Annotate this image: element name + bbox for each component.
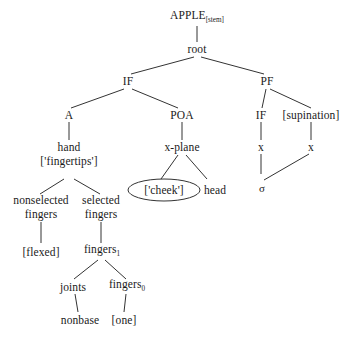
edge-if-a <box>71 89 124 108</box>
edge-pf-supination <box>270 89 311 108</box>
edge-xright-sigma <box>264 154 309 180</box>
edge-root-if <box>131 57 194 74</box>
node-if-top: IF <box>123 75 133 88</box>
node-x-left: x <box>258 141 264 154</box>
node-cheek: ['cheek'] <box>144 184 184 197</box>
node-poa: POA <box>170 109 193 122</box>
node-apple-subscript: [stem] <box>206 16 224 24</box>
node-selected-fingers-line2: fingers <box>85 208 118 222</box>
node-pf: PF <box>261 75 274 88</box>
node-fingertips: ['fingertips'] <box>40 155 97 168</box>
node-nonselected-fingers-line1: nonselected <box>13 194 68 208</box>
node-fingers0-label: fingers <box>109 278 142 290</box>
edge-xplane-head <box>186 155 207 179</box>
node-x-plane: x-plane <box>164 141 199 154</box>
node-nonbase: nonbase <box>61 314 99 327</box>
node-fingers1-subscript: 1 <box>117 250 121 258</box>
node-fingers1-label: fingers <box>84 243 117 255</box>
edge-pf-if <box>262 89 266 108</box>
edge-xplane-cheek <box>161 155 178 179</box>
node-head: head <box>204 184 226 197</box>
node-fingers0-subscript: 0 <box>142 285 146 293</box>
node-apple-label: APPLE <box>170 9 206 21</box>
node-hand: hand <box>58 141 81 154</box>
node-apple: APPLE[stem] <box>170 9 224 27</box>
tree-edges <box>0 0 353 339</box>
node-sigma: σ <box>259 182 265 195</box>
node-if-pf: IF <box>256 109 266 122</box>
edge-fingers0-one <box>124 294 126 312</box>
node-nonselected-fingers-line2: fingers <box>25 208 58 222</box>
node-flexed: [flexed] <box>22 246 59 259</box>
edge-hand-nonselected <box>40 179 64 194</box>
node-joints: joints <box>60 281 86 294</box>
edge-root-pf <box>201 57 264 74</box>
node-fingers0: fingers0 <box>109 278 145 296</box>
node-selected-fingers-line1: selected <box>82 194 120 208</box>
node-supination: [supination] <box>283 109 340 122</box>
node-root: root <box>188 43 207 56</box>
edge-fingers1-joints <box>74 260 98 279</box>
edge-fingers1-fingers0 <box>105 260 126 279</box>
node-one: [one] <box>112 314 137 327</box>
node-fingers1: fingers1 <box>84 243 120 261</box>
edge-if-poa <box>132 89 178 108</box>
edge-hand-selected <box>74 179 100 194</box>
phonological-tree-diagram: APPLE[stem] root IF PF A POA IF [supinat… <box>0 0 353 339</box>
node-x-right: x <box>308 141 314 154</box>
node-a: A <box>65 109 73 122</box>
edge-joints-nonbase <box>75 294 78 312</box>
